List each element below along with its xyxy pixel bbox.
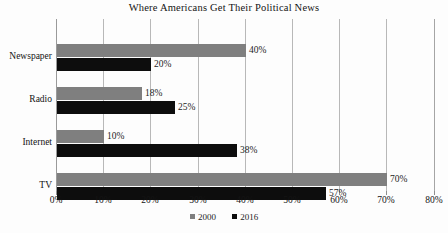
xtick-label-10: 10% <box>83 195 123 205</box>
bar-group-newspaper: 40% 20% <box>57 44 434 74</box>
category-axis: Newspaper Radio Internet TV <box>0 19 52 191</box>
bar-newspaper-2016[interactable] <box>57 58 151 71</box>
legend-label-2016: 2016 <box>240 212 258 222</box>
xtick-label-50: 50% <box>272 195 312 205</box>
x-axis-labels: 0% 10% 20% 30% 40% 50% 60% 70% 80% <box>56 195 434 207</box>
chart-legend: 2000 2016 <box>0 212 448 224</box>
bar-radio-2016[interactable] <box>57 101 175 114</box>
xtick-label-80: 80% <box>414 195 448 205</box>
bar-label-radio-2000: 18% <box>145 87 162 100</box>
category-label-internet: Internet <box>0 137 52 147</box>
source-caption-clipped: Source: Pew Research Center <box>2 232 109 233</box>
legend-item-2016[interactable]: 2016 <box>232 212 258 222</box>
xtick-label-70: 70% <box>366 195 406 205</box>
xtick-label-60: 60% <box>319 195 359 205</box>
bar-label-internet-2016: 38% <box>240 144 257 157</box>
bar-label-newspaper-2016: 20% <box>154 58 171 71</box>
bar-group-radio: 18% 25% <box>57 87 434 117</box>
plot-area: 40% 20% 18% 25% 10% 38% 70% 57% <box>56 19 434 191</box>
category-label-radio: Radio <box>0 94 52 104</box>
bar-label-newspaper-2000: 40% <box>249 44 266 57</box>
bar-internet-2016[interactable] <box>57 144 237 157</box>
bar-internet-2000[interactable] <box>57 130 104 143</box>
xtick-label-30: 30% <box>178 195 218 205</box>
xtick-label-0: 0% <box>36 195 76 205</box>
bar-label-tv-2000: 70% <box>390 173 407 186</box>
bar-newspaper-2000[interactable] <box>57 44 246 57</box>
xtick-label-40: 40% <box>225 195 265 205</box>
bar-label-internet-2000: 10% <box>107 130 124 143</box>
legend-item-2000[interactable]: 2000 <box>190 212 216 222</box>
legend-swatch-icon-2000 <box>190 214 195 219</box>
legend-label-2000: 2000 <box>198 212 216 222</box>
gridline-80 <box>434 19 435 191</box>
category-label-newspaper: Newspaper <box>0 51 52 61</box>
xtick-label-20: 20% <box>130 195 170 205</box>
bar-label-radio-2016: 25% <box>178 101 195 114</box>
chart-container: Where Americans Get Their Political News… <box>0 0 448 233</box>
bar-radio-2000[interactable] <box>57 87 142 100</box>
legend-swatch-icon-2016 <box>232 214 237 219</box>
bar-tv-2000[interactable] <box>57 173 387 186</box>
category-label-tv: TV <box>0 180 52 190</box>
chart-title: Where Americans Get Their Political News <box>0 2 448 13</box>
bar-group-internet: 10% 38% <box>57 130 434 160</box>
